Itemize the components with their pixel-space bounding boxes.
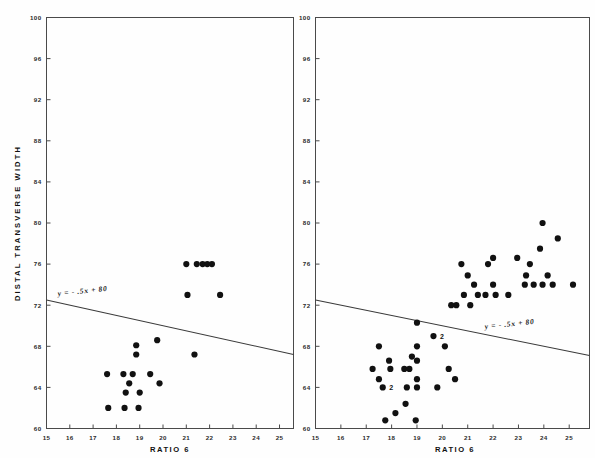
data-point <box>527 261 533 267</box>
data-point <box>522 282 528 288</box>
data-point <box>402 401 408 407</box>
y-tick-label: 88 <box>34 137 42 144</box>
data-point <box>409 353 415 359</box>
data-point <box>133 342 139 348</box>
y-tick-label: 92 <box>34 96 42 103</box>
panel-right-points <box>369 220 576 423</box>
x-tick-label: 16 <box>337 434 345 441</box>
data-point <box>537 246 543 252</box>
data-point <box>430 333 436 339</box>
data-point <box>555 235 561 241</box>
x-tick-label: 15 <box>43 434 51 441</box>
x-tick-label: 23 <box>515 434 523 441</box>
panel-left-points <box>104 261 223 411</box>
data-point <box>414 343 420 349</box>
data-point <box>387 366 393 372</box>
data-point <box>442 343 448 349</box>
data-point <box>414 376 420 382</box>
y-axis-title: DISTAL TRANSVERSE WIDTH <box>13 145 22 301</box>
x-tick-label: 22 <box>206 434 214 441</box>
data-point <box>184 292 190 298</box>
data-point <box>386 358 392 364</box>
data-point <box>382 417 388 423</box>
y-tick-label: 68 <box>34 343 42 350</box>
data-point <box>539 282 545 288</box>
data-point <box>126 380 132 386</box>
data-point <box>369 366 375 372</box>
panel-right-x-ticks <box>316 425 570 429</box>
panel-right-y-ticks <box>316 18 320 429</box>
data-point <box>514 255 520 261</box>
y-tick-label: 72 <box>303 302 311 309</box>
data-point <box>461 292 467 298</box>
regression-line <box>316 300 590 355</box>
data-point <box>121 405 127 411</box>
x-tick-label: 18 <box>388 434 396 441</box>
data-point <box>376 376 382 382</box>
y-tick-label: 100 <box>30 14 42 21</box>
data-point <box>465 272 471 278</box>
panel-right-x-ticklabels: 1516171819202122232425 <box>312 434 574 441</box>
data-point <box>570 282 576 288</box>
data-point <box>531 282 537 288</box>
data-point <box>376 343 382 349</box>
data-point <box>475 292 481 298</box>
x-tick-label: 23 <box>229 434 237 441</box>
y-tick-label: 100 <box>299 14 311 21</box>
y-tick-label: 96 <box>303 55 311 62</box>
regression-equation-label: y = - .5x + 80 <box>56 284 108 298</box>
plot-frame <box>316 18 590 429</box>
data-point <box>156 380 162 386</box>
data-point <box>467 302 473 308</box>
panel-left-y-ticks <box>47 18 51 429</box>
data-point <box>413 417 419 423</box>
x-tick-label: 21 <box>182 434 190 441</box>
y-tick-label: 84 <box>303 178 311 185</box>
y-tick-label: 84 <box>34 178 42 185</box>
data-point <box>482 292 488 298</box>
data-point <box>490 282 496 288</box>
data-point <box>135 405 141 411</box>
panel-right-plot: 60646872768084889296100 1516171819202122… <box>295 0 595 458</box>
data-point <box>123 389 129 395</box>
data-point <box>406 366 412 372</box>
y-tick-label: 92 <box>303 96 311 103</box>
panel-right: 60646872768084889296100 1516171819202122… <box>295 0 595 458</box>
data-point <box>209 261 215 267</box>
data-point <box>137 389 143 395</box>
y-tick-label: 64 <box>34 384 42 391</box>
regression-equation-label: y = - .5x + 80 <box>483 317 535 331</box>
overplot-count-label: 2 <box>389 384 393 391</box>
y-tick-label: 80 <box>34 219 42 226</box>
data-point <box>505 292 511 298</box>
panel-left-x-ticks <box>47 425 280 429</box>
data-point <box>434 384 440 390</box>
data-point <box>485 261 491 267</box>
data-point <box>539 220 545 226</box>
x-tick-label: 24 <box>540 434 548 441</box>
x-axis-title: RATIO 6 <box>150 445 190 454</box>
data-point <box>550 282 556 288</box>
x-tick-label: 25 <box>565 434 573 441</box>
data-point <box>452 376 458 382</box>
y-tick-label: 76 <box>303 260 311 267</box>
data-point <box>446 366 452 372</box>
data-point <box>191 351 197 357</box>
y-tick-label: 68 <box>303 343 311 350</box>
data-point <box>194 261 200 267</box>
x-tick-label: 19 <box>136 434 144 441</box>
panel-right-axes <box>316 18 590 429</box>
data-point <box>493 292 499 298</box>
data-point <box>130 371 136 377</box>
data-point <box>414 384 420 390</box>
x-tick-label: 20 <box>439 434 447 441</box>
x-tick-label: 21 <box>464 434 472 441</box>
regression-line <box>47 300 294 354</box>
data-point <box>217 292 223 298</box>
y-tick-label: 60 <box>303 425 311 432</box>
data-point <box>414 320 420 326</box>
scatter-figure: 60646872768084889296100 1516171819202122… <box>0 0 595 458</box>
overplot-count-label: 2 <box>440 333 444 340</box>
x-tick-label: 18 <box>113 434 121 441</box>
y-tick-label: 88 <box>303 137 311 144</box>
